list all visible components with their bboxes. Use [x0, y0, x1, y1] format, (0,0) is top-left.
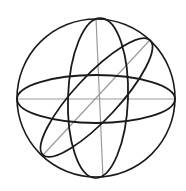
- sphere-wireframe-graphic: [0, 0, 186, 191]
- meridian-ellipse: [65, 17, 131, 179]
- vertical-axis: [96, 18, 103, 178]
- sphere-diagram: [0, 0, 186, 191]
- diagonal-axis: [43, 40, 150, 155]
